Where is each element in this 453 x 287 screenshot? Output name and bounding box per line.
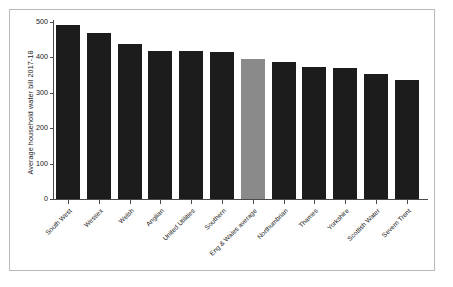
y-tick-label: 400	[36, 52, 48, 61]
bar-severn-trent[interactable]	[395, 80, 419, 199]
x-tick-mark	[130, 200, 131, 204]
bar-yorkshire[interactable]	[333, 68, 357, 199]
y-tick-label: 200	[36, 123, 48, 132]
x-tick-mark	[376, 200, 377, 204]
bar-anglian[interactable]	[148, 51, 172, 199]
bar-southern[interactable]	[210, 52, 234, 199]
bar-chart-plot-area: Average household water bill 2017-18 010…	[0, 0, 453, 287]
y-tick-mark	[50, 128, 54, 129]
y-tick-mark	[50, 22, 54, 23]
x-tick-mark	[222, 200, 223, 204]
x-tick-mark	[160, 200, 161, 204]
bar-wessex[interactable]	[87, 33, 111, 199]
x-tick-mark	[407, 200, 408, 204]
y-tick-label: 0	[44, 194, 48, 203]
bar-thames[interactable]	[302, 67, 326, 199]
y-tick-mark	[50, 164, 54, 165]
x-tick-mark	[68, 200, 69, 204]
bar-united-utilities[interactable]	[179, 51, 203, 199]
x-tick-mark	[314, 200, 315, 204]
bar-welsh[interactable]	[118, 44, 142, 199]
x-tick-mark	[345, 200, 346, 204]
y-tick-label: 500	[36, 17, 48, 26]
bar-scottish-water[interactable]	[364, 74, 388, 199]
y-tick-mark	[50, 57, 54, 58]
x-axis-spine	[53, 199, 428, 200]
bar-eng-wales-average[interactable]	[241, 59, 265, 199]
y-tick-label: 300	[36, 88, 48, 97]
y-axis-title: Average household water bill 2017-18	[26, 13, 35, 213]
y-tick-label: 100	[36, 159, 48, 168]
y-tick-mark	[50, 93, 54, 94]
bar-northumbrian[interactable]	[272, 62, 296, 199]
x-tick-mark	[99, 200, 100, 204]
x-tick-mark	[253, 200, 254, 204]
x-tick-mark	[191, 200, 192, 204]
y-axis-spine	[53, 20, 54, 200]
bar-south-west[interactable]	[56, 25, 80, 199]
x-tick-mark	[284, 200, 285, 204]
